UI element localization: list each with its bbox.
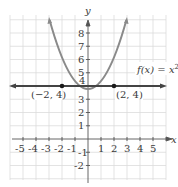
point-neg2-4	[60, 84, 65, 89]
svg-text:8: 8	[78, 28, 84, 39]
svg-text:-3: -3	[41, 143, 51, 154]
svg-text:4: 4	[79, 75, 85, 86]
x-axis-label: x	[171, 134, 177, 145]
svg-text:3: 3	[124, 143, 130, 154]
svg-text:1: 1	[78, 120, 84, 131]
arrow-up-right-icon	[124, 17, 129, 24]
svg-text:3: 3	[78, 94, 84, 105]
svg-text:-1: -1	[67, 143, 77, 154]
svg-text:5: 5	[150, 143, 156, 154]
point-label-2-4: (2, 4)	[116, 89, 143, 100]
svg-text:2: 2	[111, 143, 117, 154]
point-2-4	[112, 84, 117, 89]
svg-text:-2: -2	[54, 143, 64, 154]
svg-text:2: 2	[78, 107, 84, 118]
svg-text:7: 7	[78, 41, 84, 52]
function-label: f(x) = x2	[136, 63, 178, 75]
svg-text:-5: -5	[15, 143, 25, 154]
svg-text:-2: -2	[74, 160, 84, 171]
point-label-neg2-4: (−2, 4)	[31, 89, 66, 100]
svg-text:6: 6	[78, 54, 84, 65]
svg-text:4: 4	[137, 143, 143, 154]
svg-text:1: 1	[98, 143, 104, 154]
svg-text:-4: -4	[28, 143, 38, 154]
arrow-up-left-icon	[48, 17, 53, 24]
svg-text:-1: -1	[78, 147, 88, 158]
graph: y x -5 -4 -3 -2 -1 1 2 3 4 5 8 7 6 5 4 3…	[0, 0, 178, 187]
y-axis-label: y	[84, 5, 91, 16]
